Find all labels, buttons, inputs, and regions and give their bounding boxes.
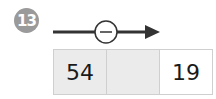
cell-answer[interactable]	[106, 50, 159, 94]
cell-subtrahend: 19	[159, 50, 212, 94]
number-table: 54 19	[53, 49, 213, 95]
cell-start: 54	[54, 50, 106, 94]
minus-arrow-icon	[0, 0, 216, 45]
